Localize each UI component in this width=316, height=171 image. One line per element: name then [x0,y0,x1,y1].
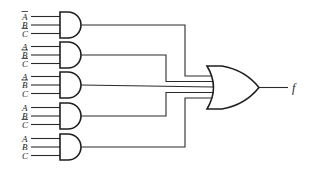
and-gate-body [60,12,81,38]
input-label: C [22,120,29,130]
and-output-wire [81,85,213,87]
and-gate-4: ABC [21,93,213,130]
or-gate: f [207,66,297,109]
input-c-bar: C [22,120,61,130]
and-output-wire [81,93,213,117]
and-gate-1: ABC [21,12,213,77]
input-c: C [22,151,60,161]
input-c: C [22,89,60,99]
input-label: C [22,29,29,39]
output-label-f: f [292,81,297,95]
logic-circuit-diagram: ABCABCABCABCABCf [0,0,316,171]
input-label: C [22,89,29,99]
or-gate-body [207,66,259,109]
and-gate-3: ABC [21,72,213,99]
and-output-wire [81,25,213,76]
and-gate-body [60,103,81,129]
and-gate-body [60,134,81,160]
input-c-bar: C [22,29,61,39]
input-label: C [22,151,29,161]
and-output-wire [81,55,213,82]
input-c-bar: C [22,59,61,69]
input-label: C [22,59,29,69]
and-gate-body [60,42,81,68]
and-gate-body [60,72,81,98]
and-gate-2: ABC [21,42,213,82]
and-output-wire [81,98,213,147]
